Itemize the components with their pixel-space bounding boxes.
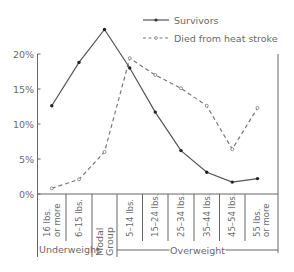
category-label-line: 6–15 lbs. [74,199,84,237]
category-label-line: or more [52,204,62,237]
data-point-marker [205,104,208,107]
data-point-marker [231,148,234,151]
line-chart: Survivors Died from heat stroke 0%5%10%1… [0,0,294,272]
data-point-marker [256,106,259,109]
data-point-marker [154,74,157,77]
data-point-marker [256,177,259,180]
series-line [52,30,258,183]
data-point-marker [180,87,183,90]
category-label-line: 55 lbs. [252,209,262,237]
category-label-line: 25–34 lbs. [176,194,186,237]
legend-label-died: Died from heat stroke [174,33,278,44]
legend-label-survivors: Survivors [174,15,219,26]
y-tick-label: 10% [13,119,34,130]
category-label-line: 45–54 lbs. [227,194,237,237]
data-point-marker [179,149,182,152]
category-label: 55 lbs.or more [252,204,272,237]
category-groups: UnderweightOverweight [39,244,278,256]
group-label-underweight: Underweight [39,244,100,255]
y-tick-label: 5% [19,154,34,165]
y-tick-label: 0% [19,189,34,200]
category-label: 35–44 lbs. [202,194,212,237]
data-point-marker [77,61,80,64]
group-label-overweight: Overweight [170,245,225,256]
legend-marker-icon [155,37,158,40]
data-point-marker [50,104,53,107]
y-tick-label: 15% [13,84,34,95]
y-tick-label: 20% [13,49,34,60]
legend: Survivors Died from heat stroke [143,15,278,44]
legend-marker-icon [154,18,157,21]
data-point-marker [50,187,53,190]
category-label-line: Group [104,227,115,256]
category-label-line: 35–44 lbs. [202,194,212,237]
category-label: 16 lbs.or more [42,204,62,237]
category-label: 25–34 lbs. [176,194,186,237]
data-point-marker [78,178,81,181]
y-axis-labels: 0%5%10%15%20% [13,49,34,200]
category-label: 45–54 lbs. [227,194,237,237]
series-died-from-heat-stroke [50,57,259,190]
data-point-marker [205,171,208,174]
data-point-marker [128,66,131,69]
data-point-marker [103,28,106,31]
legend-item-survivors: Survivors [143,15,219,26]
data-point-marker [231,180,234,183]
category-label: 15–24 lbs. [150,194,160,237]
category-label-line: 5–14 lbs. [125,199,135,237]
legend-item-died: Died from heat stroke [143,33,278,44]
category-label: 6–15 lbs. [74,199,84,237]
data-point-marker [154,110,157,113]
category-label-line: 16 lbs. [42,209,52,237]
series-line [52,58,258,188]
category-label-line: or more [261,204,271,237]
data-point-marker [128,57,131,60]
data-point-marker [103,151,106,154]
series-survivors [50,28,259,184]
category-label: 5–14 lbs. [125,199,135,237]
category-label-line: 15–24 lbs. [150,194,160,237]
